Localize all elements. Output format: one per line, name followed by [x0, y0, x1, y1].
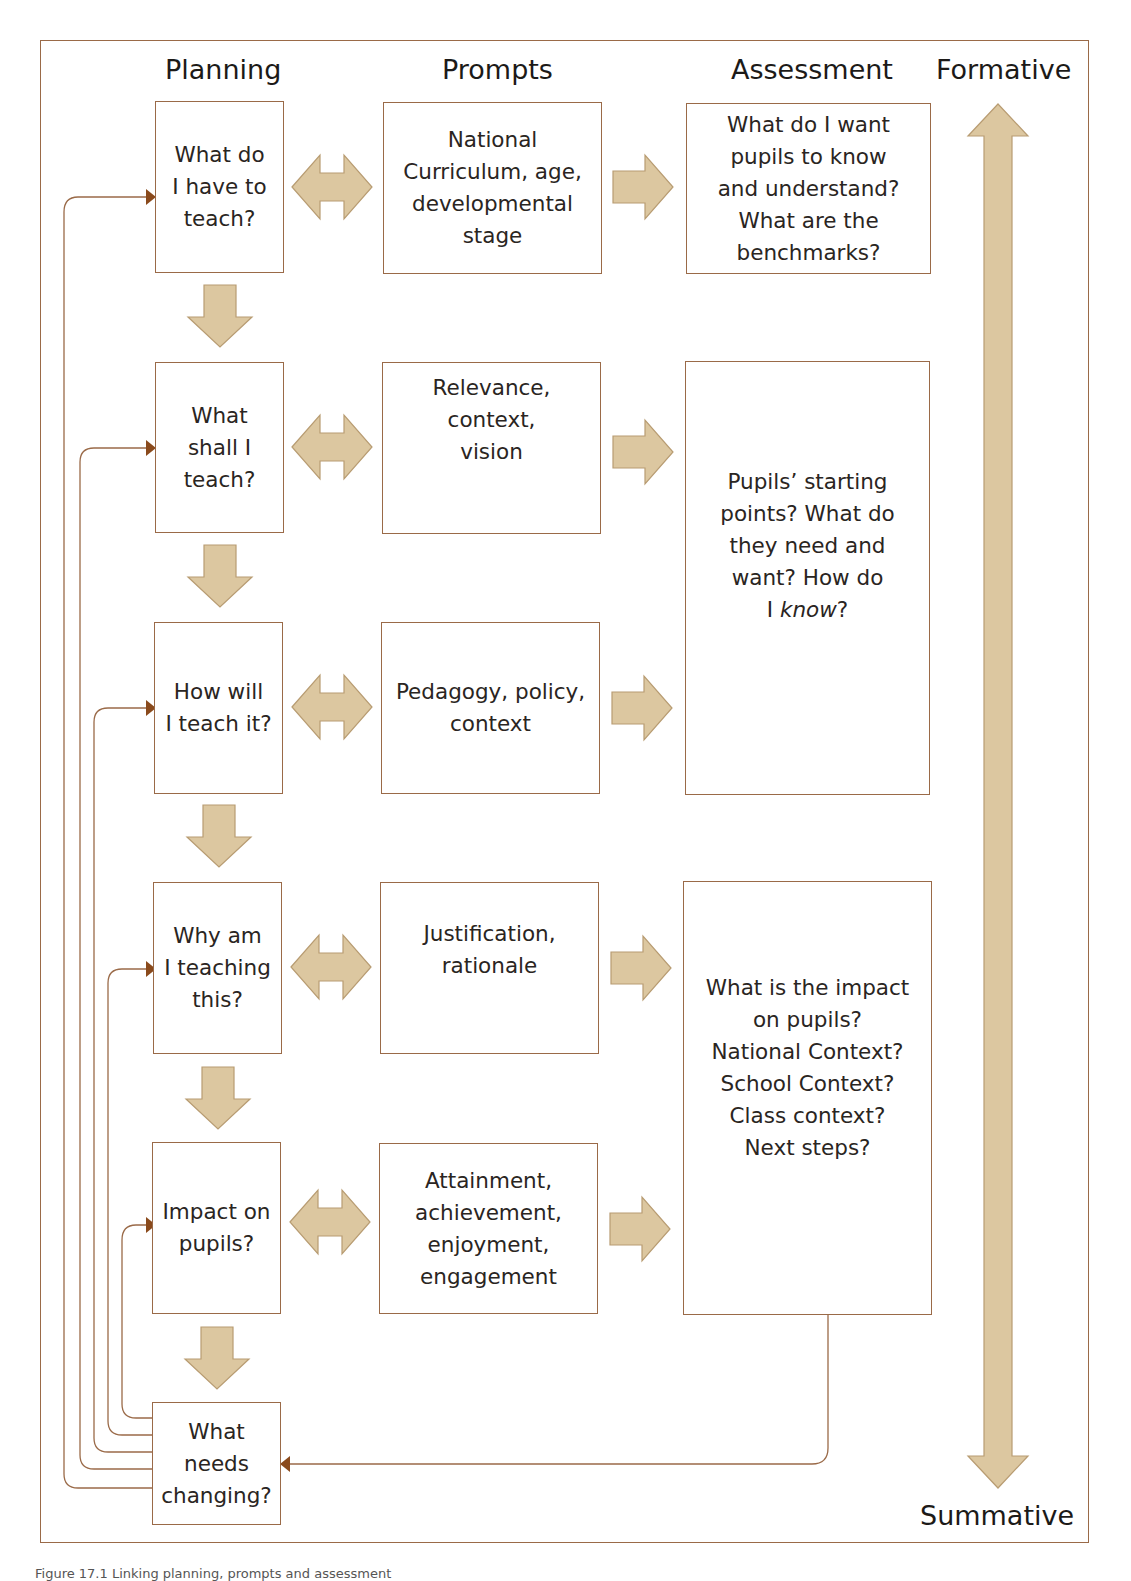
right-arrow-icon — [610, 1197, 670, 1261]
figure-caption: Figure 17.1 Linking planning, prompts an… — [35, 1566, 391, 1581]
assessment-impact: What is the impact on pupils? National C… — [683, 881, 932, 1315]
planning-step-label: What shall I teach? — [184, 400, 256, 496]
double-arrow-icon — [290, 1190, 370, 1254]
down-arrow-icon — [187, 805, 251, 867]
planning-step-impact-on-pupils: Impact on pupils? — [152, 1142, 281, 1314]
assessment-label: What do I want pupils to know and unders… — [718, 109, 900, 269]
down-arrow-icon — [186, 1067, 250, 1129]
planning-step-label: What needs changing? — [161, 1416, 272, 1512]
planning-step-label: How will I teach it? — [165, 676, 271, 740]
arrowhead-icon — [280, 1456, 290, 1472]
prompt-attainment: Attainment, achievement, enjoyment, enga… — [379, 1143, 598, 1314]
assessment-label-suffix: ? — [837, 597, 848, 622]
right-arrow-icon — [613, 155, 673, 219]
assessment-know-and-understand: What do I want pupils to know and unders… — [686, 103, 931, 274]
assessment-label: What is the impact on pupils? National C… — [706, 972, 909, 1164]
planning-step-label: What do I have to teach? — [172, 139, 266, 235]
planning-step-why-am-i-teaching: Why am I teaching this? — [153, 882, 282, 1054]
planning-step-what-needs-changing: What needs changing? — [152, 1402, 281, 1525]
double-arrow-icon — [291, 935, 371, 999]
planning-step-label: Why am I teaching this? — [164, 920, 271, 1016]
assessment-label-emphasis: know — [780, 597, 837, 622]
double-arrow-icon — [292, 155, 372, 219]
planning-step-what-shall-i-teach: What shall I teach? — [155, 362, 284, 533]
down-arrow-icon — [188, 285, 252, 347]
prompt-label: Justification, rationale — [423, 918, 555, 982]
prompt-pedagogy: Pedagogy, policy, context — [381, 622, 600, 794]
prompt-label: National Curriculum, age, developmental … — [403, 124, 581, 252]
planning-step-label: Impact on pupils? — [163, 1196, 271, 1260]
double-arrow-icon — [292, 415, 372, 479]
down-arrow-icon — [188, 545, 252, 607]
prompt-justification: Justification, rationale — [380, 882, 599, 1054]
assessment-starting-points: Pupils’ starting points? What do they ne… — [685, 361, 930, 795]
prompt-label: Attainment, achievement, enjoyment, enga… — [415, 1165, 562, 1293]
prompt-label: Relevance, context, vision — [433, 372, 551, 468]
right-arrow-icon — [612, 676, 672, 740]
planning-step-what-to-teach: What do I have to teach? — [155, 101, 284, 273]
planning-step-how-will-i-teach: How will I teach it? — [154, 622, 283, 794]
right-arrow-icon — [613, 420, 673, 484]
prompt-label: Pedagogy, policy, context — [396, 676, 585, 740]
formative-summative-arrow-icon — [968, 104, 1028, 1488]
double-arrow-icon — [292, 675, 372, 739]
down-arrow-icon — [185, 1327, 249, 1389]
assessment-label: Pupils’ starting points? What do they ne… — [720, 466, 894, 626]
right-arrow-icon — [611, 936, 671, 1000]
prompt-national-curriculum: National Curriculum, age, developmental … — [383, 102, 602, 274]
prompt-relevance: Relevance, context, vision — [382, 362, 601, 534]
